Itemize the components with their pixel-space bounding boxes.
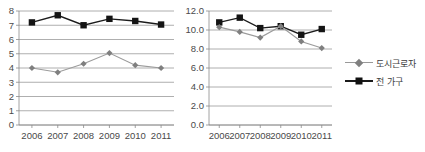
chart-panel-right: 0.02.04.06.08.010.012.020062007200820092… [182,0,342,152]
data-point [80,22,86,28]
y-tick-label: 0.0 [191,119,204,130]
x-tick-label: 2010 [125,130,146,141]
x-tick-label: 2008 [250,130,271,141]
x-tick-label: 2006 [209,130,230,141]
chart-panel-left: 012345678200620072008200920102011 [0,0,180,152]
y-tick-label: 8 [9,5,14,16]
data-point [237,14,243,20]
data-point [298,32,304,38]
line-chart-left: 012345678200620072008200920102011 [0,0,180,152]
chart-figure: 012345678200620072008200920102011 0.02.0… [0,0,425,152]
legend-label-1: 전 가구 [374,75,403,88]
data-point [55,69,61,75]
series-line [32,53,161,72]
x-tick-labels: 200620072008200920102011 [21,125,171,141]
y-tick-label: 8.0 [191,43,204,54]
data-point [158,65,164,71]
data-point [80,61,86,67]
gridlines [209,11,332,125]
y-tick-label: 6.0 [191,62,204,73]
y-tick-label: 5 [9,48,14,59]
x-tick-labels: 200620072008200920102011 [209,125,332,141]
chart-legend: 도시근로자 전 가구 [344,54,425,94]
x-tick-label: 2011 [151,130,171,141]
data-point [106,50,112,56]
data-point [132,62,138,68]
data-point [29,19,35,25]
data-point [257,35,263,41]
diamond-marker-icon [344,56,374,70]
data-point [158,21,164,27]
data-point [257,25,263,31]
y-tick-labels: 012345678 [9,5,19,130]
data-point [106,16,112,22]
data-point [55,12,61,18]
y-tick-label: 4.0 [191,81,204,92]
x-tick-label: 2009 [99,130,120,141]
legend-square-glyph [356,78,363,85]
series-line [32,15,161,25]
data-point [29,65,35,71]
x-tick-label: 2011 [312,130,332,141]
series-1 [29,12,165,28]
y-tick-label: 1 [9,105,14,116]
line-chart-right: 0.02.04.06.08.010.012.020062007200820092… [182,0,342,152]
gridlines [19,11,174,125]
y-tick-label: 10.0 [186,24,205,35]
y-tick-label: 3 [9,77,14,88]
x-tick-label: 2006 [21,130,42,141]
y-tick-label: 2 [9,91,14,102]
series-line [219,26,322,48]
y-tick-label: 12.0 [186,5,205,16]
x-tick-label: 2008 [73,130,94,141]
x-tick-label: 2007 [47,130,68,141]
square-marker-icon [344,74,374,88]
y-tick-label: 7 [9,20,14,31]
y-tick-label: 2.0 [191,100,204,111]
legend-diamond-glyph [355,59,363,67]
legend-label-0: 도시근로자 [374,57,416,70]
x-tick-label: 2009 [270,130,291,141]
y-tick-labels: 0.02.04.06.08.010.012.0 [186,5,210,130]
data-point [132,18,138,24]
x-tick-label: 2007 [229,130,250,141]
series-1 [216,14,325,38]
y-tick-label: 4 [9,62,14,73]
data-point [319,26,325,32]
legend-item-0: 도시근로자 [344,54,425,72]
data-point [319,45,325,51]
x-tick-label: 2010 [291,130,312,141]
y-tick-label: 0 [9,119,14,130]
y-tick-label: 6 [9,34,14,45]
legend-item-1: 전 가구 [344,72,425,90]
